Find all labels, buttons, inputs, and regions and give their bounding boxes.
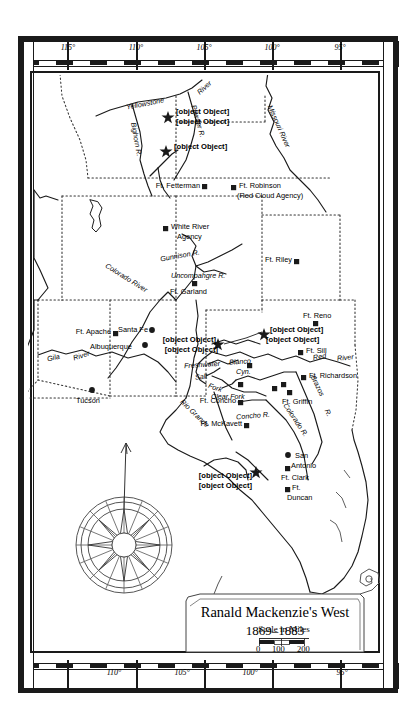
marker-fort-extra-4 (281, 382, 286, 387)
marker-tucson (89, 387, 95, 393)
marker-ft-clark (285, 466, 290, 471)
scroll-ornament (214, 569, 380, 594)
marker-ft-garland (192, 281, 197, 286)
marker-ft-fetterman (202, 184, 207, 189)
map-graphics (0, 0, 415, 726)
marker-fort-extra-3 (272, 386, 277, 391)
marker-ft-concho (238, 400, 243, 405)
star-north-fork-red-river (258, 328, 271, 340)
marker-ft-mckavett (244, 423, 249, 428)
marker-fort-extra-2 (247, 363, 252, 368)
marker-ft-reno (313, 321, 318, 326)
marker-ft-duncan (285, 487, 290, 492)
battle-markers (160, 111, 271, 478)
star-palo-duro-canyon (212, 338, 225, 350)
coastline-and-borders (22, 72, 368, 594)
marker-white-river (163, 226, 168, 231)
compass-rose (76, 497, 172, 593)
marker-albuquerque (142, 342, 148, 348)
north-arrow (121, 443, 131, 509)
map-markers (89, 184, 318, 492)
star-custer-fight (162, 111, 175, 123)
title-cartouche (186, 569, 380, 652)
marker-santa-fe (149, 327, 155, 333)
state-boundaries (22, 74, 358, 430)
marker-fort-extra-1 (238, 382, 243, 387)
marker-ft-griffin (287, 390, 292, 395)
marker-san-antonio (285, 452, 291, 458)
marker-ft-riley (294, 259, 299, 264)
marker-ft-sill (298, 350, 303, 355)
map-canvas: 115° 110° 105° 100° 95° 110° 105° 100° 9… (0, 0, 415, 726)
marker-ft-richardson (301, 375, 306, 380)
marker-ft-robinson (231, 185, 236, 190)
marker-ft-apache (113, 331, 118, 336)
